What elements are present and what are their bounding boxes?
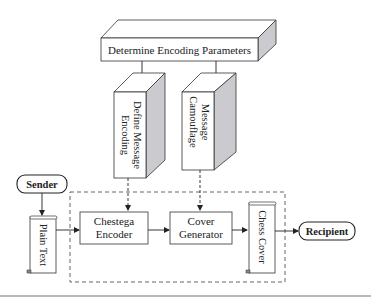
determine-params-label: Determine Encoding Parameters (108, 44, 251, 56)
cover-generator-box: Cover Generator (170, 212, 232, 244)
define-message-encoding-box: Define Message Encoding (114, 73, 165, 178)
cover-generator-label-line2: Generator (179, 228, 223, 240)
define-encoding-label-line1: Define Message (132, 101, 143, 169)
camouflage-label-line2: Camouflage (188, 96, 199, 148)
determine-encoding-parameters-box: Determine Encoding Parameters (101, 20, 276, 61)
chestega-encoder-box: Chestega Encoder (80, 212, 148, 244)
camouflage-label-line1: Message (200, 104, 211, 141)
chestega-encoder-label-line1: Chestega (94, 215, 134, 227)
diagram-canvas: Determine Encoding Parameters Define Mes… (0, 0, 371, 300)
plain-text-scroll: Plain Text (27, 216, 57, 273)
chess-cover-scroll: Chess Cover (246, 202, 276, 273)
cover-generator-label-line1: Cover (188, 215, 215, 227)
define-encoding-label-line2: Encoding (120, 115, 131, 156)
chestega-encoder-label-line2: Encoder (96, 228, 133, 240)
recipient-terminator: Recipient (299, 222, 355, 240)
sender-terminator: Sender (17, 175, 67, 193)
chess-cover-label: Chess Cover (257, 210, 268, 264)
sender-label: Sender (26, 179, 58, 190)
plain-text-label: Plain Text (38, 224, 49, 267)
recipient-label: Recipient (306, 226, 349, 237)
message-camouflage-box: Message Camouflage (182, 73, 236, 170)
